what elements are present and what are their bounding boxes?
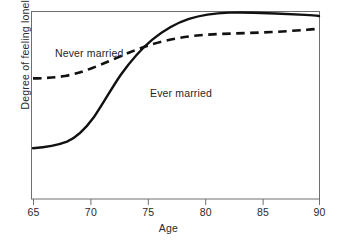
y-axis-title-container: Degree of feeling lonely [19,0,35,132]
chart-plot-area [0,0,337,246]
x-axis-title: Age [0,222,337,234]
x-tick-label-80: 80 [191,206,221,218]
x-tick-label-70: 70 [76,206,106,218]
series-label-ever-married: Ever married [150,87,212,99]
x-axis-ticks [34,199,320,205]
x-tick-label-65: 65 [19,206,49,218]
x-tick-label-90: 90 [305,206,335,218]
x-tick-label-85: 85 [248,206,278,218]
y-axis-title: Degree of feeling lonely [19,0,31,132]
series-line-ever-married [33,12,319,148]
chart-figure: 65 70 75 80 85 90 Age Degree of feeling … [0,0,337,246]
plot-frame [32,12,320,200]
x-tick-label-75: 75 [133,206,163,218]
series-label-never-married: Never married [55,47,123,59]
